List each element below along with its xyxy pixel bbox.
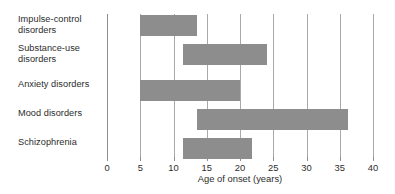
- tick-label-40: 40: [368, 162, 378, 173]
- tick-mark-35: [340, 157, 341, 161]
- category-axis: Impulse-control disorders Substance-use …: [0, 14, 100, 157]
- tick-label-0: 0: [104, 162, 109, 173]
- gridline-40: [373, 14, 374, 157]
- gridline-30: [307, 14, 308, 157]
- bar-impulse-control-disorders: [140, 15, 197, 36]
- category-label-line2: disorders: [18, 54, 56, 64]
- tick-label-25: 25: [268, 162, 278, 173]
- category-label-anxiety-disorders: Anxiety disorders: [0, 79, 94, 90]
- tick-mark-25: [273, 157, 274, 161]
- tick-mark-15: [207, 157, 208, 161]
- tick-mark-20: [240, 157, 241, 161]
- tick-mark-0: [107, 157, 108, 161]
- tick-mark-5: [140, 157, 141, 161]
- tick-label-20: 20: [235, 162, 245, 173]
- axis-title: Age of onset (years): [107, 173, 373, 184]
- tick-label-35: 35: [335, 162, 345, 173]
- tick-label-30: 30: [301, 162, 311, 173]
- category-label-line1: Substance-use: [18, 43, 80, 53]
- category-label-line1: Schizophrenia: [18, 137, 77, 147]
- gridline-20: [240, 14, 241, 157]
- category-label-line2: disorders: [18, 25, 56, 35]
- tick-label-5: 5: [138, 162, 143, 173]
- tick-mark-30: [307, 157, 308, 161]
- category-label-line1: Impulse-control: [18, 14, 82, 24]
- bar-mood-disorders: [197, 109, 348, 130]
- category-label-line1: Mood disorders: [18, 108, 82, 118]
- bar-anxiety-disorders: [140, 80, 240, 101]
- gridline-35: [340, 14, 341, 157]
- horizontal-range-bar-chart: Impulse-control disorders Substance-use …: [0, 0, 395, 194]
- bar-schizophrenia: [183, 138, 252, 159]
- bar-substance-use-disorders: [183, 44, 266, 65]
- gridline-25: [273, 14, 274, 157]
- category-label-impulse-control-disorders: Impulse-control disorders: [0, 14, 94, 36]
- tick-label-15: 15: [202, 162, 212, 173]
- tick-mark-40: [373, 157, 374, 161]
- tick-mark-10: [174, 157, 175, 161]
- category-label-substance-use-disorders: Substance-use disorders: [0, 43, 94, 65]
- tick-label-10: 10: [168, 162, 178, 173]
- category-label-line1: Anxiety disorders: [18, 79, 89, 89]
- plot-area: [107, 14, 373, 157]
- category-label-schizophrenia: Schizophrenia: [0, 137, 94, 148]
- category-label-mood-disorders: Mood disorders: [0, 108, 94, 119]
- gridline-0: [107, 14, 108, 157]
